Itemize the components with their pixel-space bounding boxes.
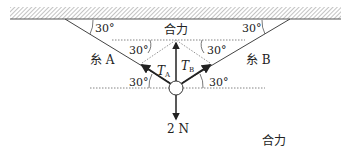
ceiling (10, 7, 341, 19)
weight-label: 2 N (167, 122, 189, 136)
angle-label-lower-left: 30° (129, 76, 149, 89)
extra-resultant-label: 合力 (262, 133, 286, 148)
resultant-label: 合力 (164, 22, 188, 37)
angle-label-upper-right: 30° (207, 44, 227, 57)
tension-a-label: TA (157, 64, 171, 79)
angle-label-ceiling-right: 30° (242, 22, 262, 35)
force-diagram: 30° 30° 30° 30° 30° 30° 糸 A 糸 B 合力 TA TB… (0, 0, 351, 150)
angle-label-upper-left: 30° (129, 44, 149, 57)
angle-label-lower-right: 30° (209, 76, 229, 89)
string-a-label: 糸 A (90, 53, 115, 67)
tension-b-label: TB (181, 59, 194, 74)
string-b-label: 糸 B (246, 53, 271, 67)
object-ball (169, 81, 183, 95)
angle-label-ceiling-left: 30° (95, 22, 115, 35)
